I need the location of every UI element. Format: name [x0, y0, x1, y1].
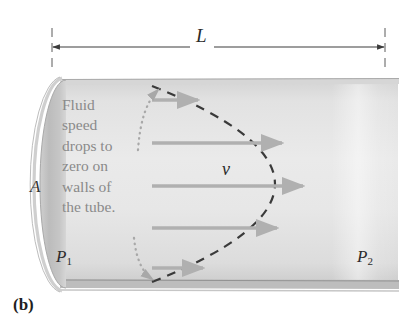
- pressure-inlet-label: P1: [56, 248, 72, 267]
- callout-note-line: speed: [62, 115, 148, 135]
- pressure-inlet-symbol: P: [56, 247, 66, 266]
- callout-note-line: the tube.: [62, 197, 148, 217]
- tube-wall-bottom-rim: [62, 290, 399, 291]
- tube-diagram-svg: [0, 0, 401, 329]
- callout-note: Fluid speed drops to zero on walls of th…: [62, 95, 148, 218]
- pressure-inlet-subscript: 1: [66, 255, 72, 267]
- pressure-outlet-subscript: 2: [367, 255, 373, 267]
- area-label: A: [30, 178, 40, 195]
- pressure-outlet-symbol: P: [357, 247, 367, 266]
- callout-note-line: Fluid: [62, 95, 148, 115]
- dimension-line-group: [52, 28, 385, 70]
- figure-caption: (b): [13, 296, 34, 313]
- callout-note-line: zero on: [62, 156, 148, 176]
- velocity-label: v: [222, 160, 230, 178]
- callout-note-line: drops to: [62, 136, 148, 156]
- callout-note-line: walls of: [62, 177, 148, 197]
- fluid-flow-figure: L v A P1 P2 Fluid speed drops to zero on…: [0, 0, 401, 329]
- length-label: L: [196, 26, 207, 45]
- pressure-outlet-label: P2: [357, 248, 373, 267]
